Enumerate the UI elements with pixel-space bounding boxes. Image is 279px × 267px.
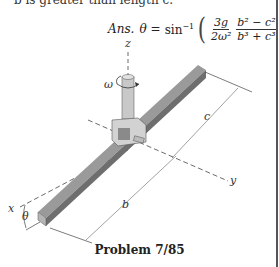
clevis-slot [118, 128, 130, 140]
c-extension-line [205, 72, 252, 92]
x-axis-label: x [8, 202, 15, 215]
c-dimension-label: c [204, 110, 210, 123]
b-extension-line [50, 228, 92, 243]
theta-reference-line [26, 222, 40, 230]
rotation-arrow-tail [117, 76, 122, 84]
y-axis-label: y [229, 174, 237, 187]
rotating-bar-figure: z x y θ b c ω [0, 0, 279, 267]
omega-label: ω [104, 78, 113, 91]
z-axis-label: z [124, 37, 131, 50]
vertical-shaft [122, 77, 134, 119]
figure-caption: Problem 7/85 [0, 243, 279, 257]
b-dimension-label: b [122, 198, 129, 211]
shaft-top [122, 75, 134, 80]
theta-label: θ [22, 210, 29, 223]
